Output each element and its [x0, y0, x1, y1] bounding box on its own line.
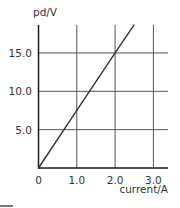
corner-mark — [0, 205, 13, 207]
series-line — [39, 25, 135, 168]
x-tick-label: 0 — [35, 174, 42, 186]
y-tick-label: 5.0 — [15, 124, 32, 136]
y-tick-label: 10.0 — [9, 85, 32, 97]
y-tick-label: 15.0 — [9, 47, 32, 59]
pd-current-chart: 01.02.03.05.010.015.0 pd/V current/A — [0, 0, 180, 208]
y-axis-label: pd/V — [33, 6, 58, 18]
x-axis-label: current/A — [119, 183, 168, 195]
data-series — [39, 25, 135, 168]
axes — [38, 25, 168, 169]
grid-lines — [39, 25, 169, 168]
tick-labels: 01.02.03.05.010.015.0 — [9, 47, 162, 186]
x-tick-label: 1.0 — [68, 174, 85, 186]
